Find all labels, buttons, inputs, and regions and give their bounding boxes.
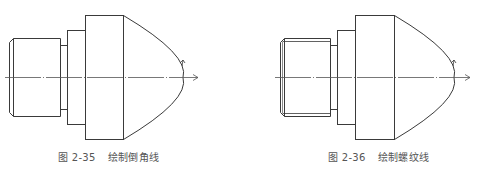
figure-2-36: 图 2-36绘制螺纹线 [239,0,478,170]
figure-title: 绘制螺纹线 [378,152,430,163]
figure-number: 图 2-35 [58,152,96,163]
shaft-drawing-thread [239,0,478,145]
figure-caption: 图 2-35绘制倒角线 [58,149,159,164]
figure-2-35: 图 2-35绘制倒角线 [0,0,239,170]
figure-title: 绘制倒角线 [108,152,160,163]
figure-caption: 图 2-36绘制螺纹线 [328,149,429,164]
figure-number: 图 2-36 [328,152,366,163]
shaft-drawing-chamfer [0,0,239,145]
